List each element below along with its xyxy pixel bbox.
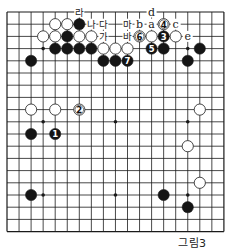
star-point-icon xyxy=(186,47,190,51)
point-label: 바 xyxy=(123,31,132,42)
move-number: 2 xyxy=(76,105,82,115)
point-label: 가 xyxy=(99,31,108,42)
star-point-icon xyxy=(114,193,118,197)
move-number: 6 xyxy=(137,32,143,42)
point-label: d xyxy=(148,6,155,19)
white-stone xyxy=(86,31,97,42)
black-stone xyxy=(62,43,73,54)
white-stone xyxy=(146,31,157,42)
black-stone-numbered: 1 xyxy=(50,128,61,139)
white-stone-numbered: 6 xyxy=(134,31,145,42)
point-label: e xyxy=(184,30,191,43)
black-stone xyxy=(194,43,205,54)
point-label: b xyxy=(136,18,143,31)
figure-caption: 그림3 xyxy=(178,234,207,250)
black-stone-numbered: 3 xyxy=(158,31,169,42)
white-stone xyxy=(194,177,205,188)
black-stone xyxy=(26,189,37,200)
white-stone xyxy=(74,31,85,42)
white-stone xyxy=(50,104,61,115)
white-stone xyxy=(50,31,61,42)
white-stone xyxy=(110,43,121,54)
star-point-icon xyxy=(41,120,45,124)
black-stone xyxy=(62,31,73,42)
white-stone xyxy=(62,19,73,30)
black-stone xyxy=(26,55,37,66)
black-stone xyxy=(26,128,37,139)
point-label: a xyxy=(148,18,155,31)
point-label: c xyxy=(173,18,179,31)
move-number: 4 xyxy=(161,20,167,30)
move-number: 5 xyxy=(149,44,155,54)
white-stone xyxy=(50,19,61,30)
move-number: 3 xyxy=(161,32,167,42)
star-point-icon xyxy=(186,120,190,124)
black-stone xyxy=(98,55,109,66)
black-stone-numbered: 7 xyxy=(122,55,133,66)
white-stone xyxy=(122,43,133,54)
point-label: 다 xyxy=(99,19,108,30)
black-stone xyxy=(74,43,85,54)
black-stone xyxy=(182,202,193,213)
move-number: 1 xyxy=(52,129,58,139)
black-stone xyxy=(74,19,85,30)
black-stone xyxy=(158,43,169,54)
black-stone xyxy=(158,189,169,200)
white-stone-numbered: 4 xyxy=(158,19,169,30)
move-number: 7 xyxy=(125,56,131,66)
star-point-icon xyxy=(186,193,190,197)
white-stone xyxy=(182,141,193,152)
white-stone xyxy=(98,43,109,54)
white-stone xyxy=(38,31,49,42)
point-label: 마 xyxy=(123,19,132,30)
white-stone-numbered: 2 xyxy=(74,104,85,115)
black-stone xyxy=(110,55,121,66)
black-stone xyxy=(50,43,61,54)
black-stone xyxy=(86,43,97,54)
star-point-icon xyxy=(41,47,45,51)
white-stone xyxy=(170,31,181,42)
star-point-icon xyxy=(114,120,118,124)
black-stone xyxy=(182,55,193,66)
point-label: 나 xyxy=(87,19,96,30)
white-stone xyxy=(26,104,37,115)
white-stone xyxy=(194,104,205,115)
point-label: 라 xyxy=(75,7,84,18)
star-point-icon xyxy=(41,193,45,197)
black-stone-numbered: 5 xyxy=(146,43,157,54)
